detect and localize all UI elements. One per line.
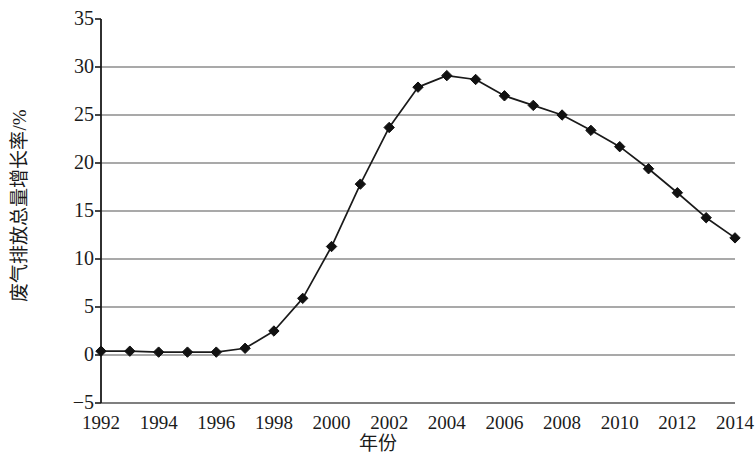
data-point-marker xyxy=(240,343,250,353)
data-point-marker xyxy=(211,347,221,357)
plot-area xyxy=(0,0,756,455)
x-axis-tick-label: 2014 xyxy=(700,413,756,432)
data-point-marker xyxy=(499,91,509,101)
data-point-marker xyxy=(326,241,336,251)
data-point-marker xyxy=(586,125,596,135)
data-point-marker xyxy=(730,233,740,243)
data-line xyxy=(101,76,735,352)
data-point-marker xyxy=(153,347,163,357)
data-point-marker xyxy=(528,100,538,110)
data-point-marker xyxy=(355,179,365,189)
data-point-marker xyxy=(557,110,567,120)
data-point-marker xyxy=(442,70,452,80)
data-point-marker xyxy=(182,347,192,357)
chart-container: 废气排放总量增长率/% 35302520151050−5 19921994199… xyxy=(0,0,756,455)
data-point-marker xyxy=(470,74,480,84)
x-axis-title: 年份 xyxy=(0,434,756,453)
